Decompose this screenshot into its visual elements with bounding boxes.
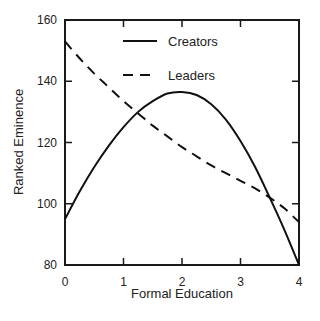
y-tick-label: 140 — [37, 74, 57, 88]
y-tick-label: 120 — [37, 136, 57, 150]
legend-label-leaders: Leaders — [168, 68, 215, 83]
plot-frame — [65, 20, 299, 265]
x-tick-label: 0 — [62, 275, 69, 289]
y-axis-label: Ranked Eminence — [11, 89, 26, 195]
legend-label-creators: Creators — [168, 34, 218, 49]
y-tick-label: 100 — [37, 197, 57, 211]
axis-ticks — [65, 20, 299, 265]
series-creators — [65, 92, 299, 265]
x-tick-label: 4 — [296, 275, 303, 289]
line-chart: 0123480100120140160 CreatorsLeaders Form… — [0, 0, 320, 321]
y-tick-label: 160 — [37, 13, 57, 27]
y-tick-label: 80 — [44, 258, 58, 272]
x-axis-label: Formal Education — [131, 286, 233, 301]
x-tick-label: 3 — [237, 275, 244, 289]
x-tick-label: 1 — [120, 275, 127, 289]
plot-border — [65, 20, 299, 265]
legend: CreatorsLeaders — [123, 34, 218, 83]
